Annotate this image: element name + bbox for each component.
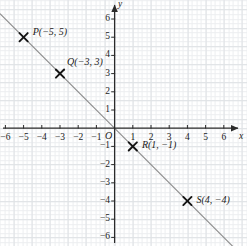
graph-canvas: O x y −6−5−4−3−2−1123456654321−1−2−3−4−5… <box>0 0 247 246</box>
point-marker-Q <box>56 70 64 78</box>
point-marker-S <box>183 197 191 205</box>
point-marker-R <box>129 142 137 150</box>
x-tick-label-5: 5 <box>203 133 208 143</box>
x-tick-label-4: 4 <box>185 133 190 143</box>
point-label-S: S(4, −4) <box>197 195 230 205</box>
y-tick-label-2: 2 <box>105 87 110 97</box>
point-label-Q: Q(−3, 3) <box>67 57 103 67</box>
y-tick-label-3: 3 <box>105 69 110 79</box>
y-tick-label--6: −6 <box>100 232 110 242</box>
y-tick-label-1: 1 <box>105 105 110 115</box>
x-tick-label--4: −4 <box>37 133 47 143</box>
x-tick-label--5: −5 <box>19 133 29 143</box>
point-marker-P <box>20 33 28 41</box>
y-tick-label--5: −5 <box>100 214 110 224</box>
y-tick-label-6: 6 <box>105 14 110 24</box>
point-label-R: R(1, −1) <box>142 140 177 150</box>
y-axis-label: y <box>118 0 122 10</box>
trend-line <box>0 14 233 246</box>
x-tick-label--2: −2 <box>73 133 83 143</box>
point-label-P: P(−5, 5) <box>33 27 68 37</box>
y-tick-label--3: −3 <box>100 178 110 188</box>
x-tick-label--6: −6 <box>0 133 10 143</box>
x-tick-label-6: 6 <box>221 133 226 143</box>
y-tick-label-5: 5 <box>105 32 110 42</box>
x-tick-label--3: −3 <box>55 133 65 143</box>
y-tick-label--1: −1 <box>100 141 110 151</box>
y-tick-label--4: −4 <box>100 196 110 206</box>
x-tick-label-1: 1 <box>130 133 135 143</box>
y-tick-label-4: 4 <box>105 50 110 60</box>
x-axis-label: x <box>239 132 243 142</box>
y-tick-label--2: −2 <box>100 160 110 170</box>
